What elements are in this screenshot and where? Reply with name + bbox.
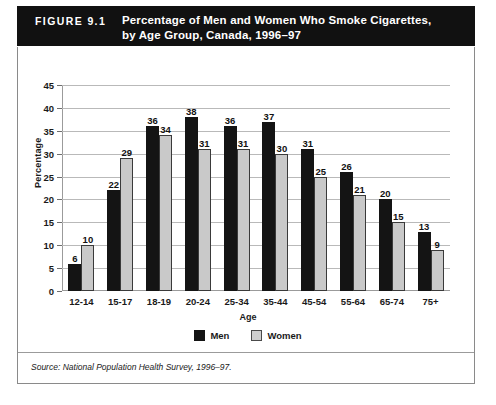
bar-value-label: 36 <box>225 115 236 126</box>
chart-legend: Men Women <box>0 330 496 341</box>
bar-men: 37 <box>262 122 275 291</box>
bar-men: 36 <box>146 126 159 291</box>
y-axis-tick-label: 0 <box>49 286 54 297</box>
y-axis-tick <box>57 222 62 223</box>
bar-group: 373035-44 <box>262 85 288 291</box>
bar-women: 31 <box>237 149 250 291</box>
bar-value-label: 26 <box>341 161 352 172</box>
figure-title: Percentage of Men and Women Who Smoke Ci… <box>122 13 467 42</box>
bar-men: 38 <box>185 117 198 291</box>
legend-swatch-men-icon <box>194 330 205 341</box>
x-axis-tick-label: 55-64 <box>341 296 365 307</box>
legend-item-women: Women <box>251 330 301 341</box>
bar-women: 15 <box>392 222 405 291</box>
bar-women: 25 <box>314 177 327 291</box>
bar-group: 13975+ <box>418 85 444 291</box>
legend-label-women: Women <box>267 330 301 341</box>
bar-men: 22 <box>107 190 120 291</box>
bar-group: 262155-64 <box>340 85 366 291</box>
bar-men: 31 <box>301 149 314 291</box>
figure-banner: FIGURE 9.1 Percentage of Men and Women W… <box>17 6 475 46</box>
bar-value-label: 10 <box>83 234 94 245</box>
y-axis-tick-label: 15 <box>43 217 54 228</box>
bar-men: 13 <box>418 232 431 292</box>
bar-value-label: 9 <box>434 239 439 250</box>
bar-men: 26 <box>340 172 353 291</box>
x-axis-tick-label: 12-14 <box>69 296 93 307</box>
bar-group: 383120-24 <box>185 85 211 291</box>
bar-women: 21 <box>353 195 366 291</box>
bar-women: 34 <box>159 135 172 291</box>
x-axis-tick-label: 35-44 <box>263 296 287 307</box>
figure-number: FIGURE 9.1 <box>35 15 106 27</box>
bar-value-label: 36 <box>147 115 158 126</box>
y-axis-tick <box>57 268 62 269</box>
x-axis-tick-label: 65-74 <box>380 296 404 307</box>
legend-label-men: Men <box>210 330 229 341</box>
figure-container: FIGURE 9.1 Percentage of Men and Women W… <box>0 0 496 405</box>
x-axis-tick-label: 25-34 <box>224 296 248 307</box>
bar-value-label: 30 <box>277 143 288 154</box>
bar-value-label: 29 <box>121 147 132 158</box>
bar-group: 312545-54 <box>301 85 327 291</box>
y-axis-tick <box>57 291 62 292</box>
y-axis-tick-label: 20 <box>43 194 54 205</box>
bar-group: 201565-74 <box>379 85 405 291</box>
x-axis-tick-label: 20-24 <box>186 296 210 307</box>
y-axis-tick-label: 25 <box>43 171 54 182</box>
bar-value-label: 22 <box>108 179 119 190</box>
x-axis-tick-label: 75+ <box>423 296 439 307</box>
bar-value-label: 6 <box>72 253 77 264</box>
bar-value-label: 15 <box>393 211 404 222</box>
plot-area: 051015202530354045 61012-14222915-173634… <box>62 85 450 291</box>
x-axis-tick-label: 18-19 <box>147 296 171 307</box>
figure-title-line-1: Percentage of Men and Women Who Smoke Ci… <box>122 14 431 26</box>
y-axis-tick <box>57 85 62 86</box>
bar-value-label: 21 <box>354 184 365 195</box>
bar-value-label: 31 <box>238 138 249 149</box>
y-axis-tick <box>57 199 62 200</box>
y-axis-tick-label: 5 <box>49 263 54 274</box>
bar-group: 363125-34 <box>224 85 250 291</box>
bar-women: 31 <box>198 149 211 291</box>
y-axis-tick-label: 30 <box>43 148 54 159</box>
bar-value-label: 31 <box>302 138 313 149</box>
bar-value-label: 37 <box>264 111 275 122</box>
bar-men: 20 <box>379 199 392 291</box>
y-axis-tick <box>57 245 62 246</box>
y-axis-tick <box>57 177 62 178</box>
x-axis-tick-label: 15-17 <box>108 296 132 307</box>
bar-group: 61012-14 <box>68 85 94 291</box>
bar-women: 30 <box>275 154 288 291</box>
figure-title-line-2: by Age Group, Canada, 1996–97 <box>122 28 467 43</box>
bar-group: 222915-17 <box>107 85 133 291</box>
bar-men: 6 <box>68 264 81 291</box>
bar-group: 363418-19 <box>146 85 172 291</box>
y-axis-tick <box>57 131 62 132</box>
y-axis-tick <box>57 108 62 109</box>
legend-item-men: Men <box>194 330 229 341</box>
bar-value-label: 38 <box>186 106 197 117</box>
source-divider <box>18 352 474 353</box>
bar-women: 29 <box>120 158 133 291</box>
y-axis-tick-label: 35 <box>43 125 54 136</box>
y-axis-tick-label: 40 <box>43 102 54 113</box>
bar-men: 36 <box>224 126 237 291</box>
y-axis-tick <box>57 154 62 155</box>
bar-value-label: 25 <box>315 166 326 177</box>
x-axis-tick-label: 45-54 <box>302 296 326 307</box>
y-axis-title: Percentage <box>33 137 43 188</box>
bar-women: 9 <box>431 250 444 291</box>
y-axis-tick-label: 10 <box>43 240 54 251</box>
source-note: Source: National Population Health Surve… <box>31 362 232 372</box>
bar-value-label: 20 <box>380 188 391 199</box>
legend-swatch-women-icon <box>251 330 262 341</box>
y-axis-tick-label: 45 <box>43 80 54 91</box>
bar-value-label: 13 <box>419 221 430 232</box>
bar-value-label: 34 <box>160 124 171 135</box>
bar-women: 10 <box>81 245 94 291</box>
bar-value-label: 31 <box>199 138 210 149</box>
x-axis-title: Age <box>0 312 496 322</box>
